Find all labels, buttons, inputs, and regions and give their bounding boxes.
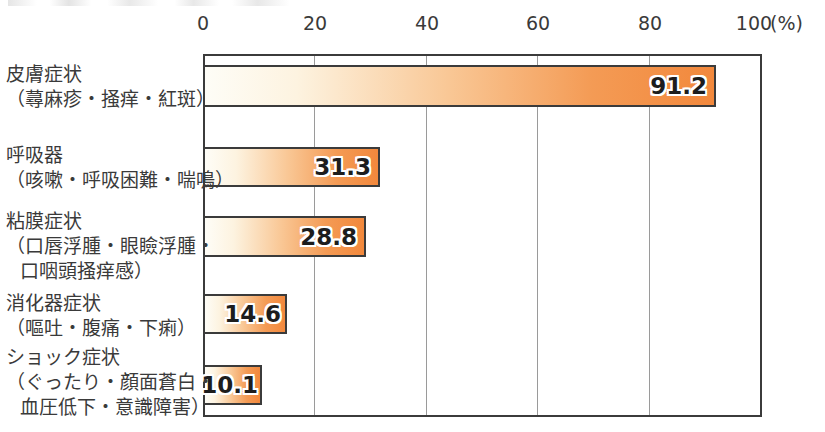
category-label-gastrointestinal-line2: （嘔吐・腹痛・下痢） <box>6 316 202 341</box>
x-tick-0: 0 <box>197 12 209 34</box>
bar-value-gastrointestinal: 14.6 <box>224 301 285 327</box>
category-label-mucosal-line3: 口咽頭掻痒感） <box>6 259 202 284</box>
plot-area: 91.2 31.3 28.8 14.6 10.1 <box>203 54 762 417</box>
category-label-skin-line1: 皮膚症状 <box>6 62 202 87</box>
category-label-mucosal-line1: 粘膜症状 <box>6 209 202 234</box>
gridline-80 <box>649 56 650 415</box>
gridline-40 <box>426 56 427 415</box>
x-tick-20: 20 <box>303 12 327 34</box>
category-label-shock-line3: 血圧低下・意識障害） <box>6 395 202 420</box>
category-label-respiratory: 呼吸器 （咳嗽・呼吸困難・喘鳴） <box>6 143 202 193</box>
x-tick-40: 40 <box>415 12 439 34</box>
category-label-shock-line2: （ぐったり・顔面蒼白・ <box>6 370 202 395</box>
category-label-mucosal: 粘膜症状 （口唇浮腫・眼瞼浮腫・ 口咽頭掻痒感） <box>6 209 202 284</box>
bar-value-skin: 91.2 <box>650 73 714 99</box>
bar-mucosal: 28.8 <box>203 216 366 257</box>
bar-skin: 91.2 <box>203 65 716 107</box>
x-tick-60: 60 <box>526 12 550 34</box>
x-tick-100: 100 <box>736 12 772 34</box>
category-label-mucosal-line2: （口唇浮腫・眼瞼浮腫・ <box>6 234 202 259</box>
category-label-respiratory-line2: （咳嗽・呼吸困難・喘鳴） <box>6 168 202 193</box>
category-label-skin-line2: （蕁麻疹・掻痒・紅斑） <box>6 87 202 112</box>
category-label-skin: 皮膚症状 （蕁麻疹・掻痒・紅斑） <box>6 62 202 112</box>
category-label-respiratory-line1: 呼吸器 <box>6 143 202 168</box>
category-label-shock-line1: ショック症状 <box>6 345 202 370</box>
horizontal-bar-chart: 0 20 40 60 80 100 (%) 91.2 31.3 28.8 14.… <box>0 0 825 432</box>
bar-value-mucosal: 28.8 <box>300 224 364 250</box>
cropped-title-remnant <box>8 0 328 6</box>
x-axis-tick-labels: 0 20 40 60 80 100 (%) <box>0 12 825 38</box>
category-label-shock: ショック症状 （ぐったり・顔面蒼白・ 血圧低下・意識障害） <box>6 345 202 420</box>
x-axis-unit-label: (%) <box>770 12 803 34</box>
bar-value-respiratory: 31.3 <box>314 154 378 180</box>
x-tick-80: 80 <box>638 12 662 34</box>
category-label-gastrointestinal: 消化器症状 （嘔吐・腹痛・下痢） <box>6 291 202 341</box>
category-label-gastrointestinal-line1: 消化器症状 <box>6 291 202 316</box>
gridline-60 <box>537 56 538 415</box>
bar-gastrointestinal: 14.6 <box>203 294 287 334</box>
